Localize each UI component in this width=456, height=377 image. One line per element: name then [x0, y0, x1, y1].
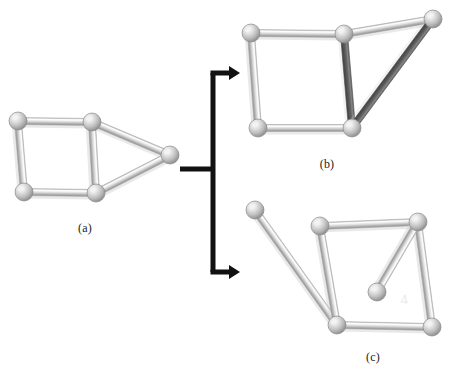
graph-node — [409, 213, 428, 231]
graph-node — [242, 24, 261, 42]
graph-node — [311, 217, 330, 235]
graph-node — [249, 119, 268, 137]
graph-edge — [18, 118, 92, 129]
graph-node — [9, 112, 28, 130]
graph-edge — [245, 33, 262, 129]
graph-edge — [24, 189, 96, 200]
panel-b-group — [242, 10, 443, 137]
graph-edge — [251, 30, 344, 41]
graph-node — [335, 25, 354, 43]
graph-node — [161, 146, 180, 164]
panel-c-group — [246, 201, 442, 336]
graph-edge-highlighted — [338, 34, 356, 129]
graph-edge — [86, 122, 100, 194]
graph-edge — [12, 121, 28, 193]
graph-node — [83, 113, 102, 131]
panel-c-edges — [250, 208, 436, 334]
graph-node — [423, 318, 442, 336]
graph-edge — [89, 119, 171, 161]
panel-label-b: (b) — [320, 157, 335, 172]
panel-a-group — [9, 112, 180, 202]
panel-label-c: (c) — [366, 350, 380, 365]
arrow-to-b-head — [229, 66, 240, 80]
graph-edge — [412, 222, 436, 328]
graph-node — [424, 10, 443, 28]
figure-root: (a) (b) (c) 4 — [0, 0, 456, 377]
graph-edge — [337, 322, 432, 334]
panel-label-a: (a) — [78, 221, 92, 236]
graph-diagram-canvas — [0, 0, 456, 377]
graph-node — [246, 201, 265, 219]
branching-transformation-arrow — [180, 66, 240, 279]
watermark-artifact: 4 — [399, 291, 409, 309]
arrow-to-c-head — [229, 265, 240, 279]
graph-edge — [94, 152, 173, 199]
graph-edge — [258, 125, 352, 135]
graph-node — [15, 183, 34, 201]
graph-node — [328, 316, 347, 334]
graph-edge — [320, 219, 418, 233]
